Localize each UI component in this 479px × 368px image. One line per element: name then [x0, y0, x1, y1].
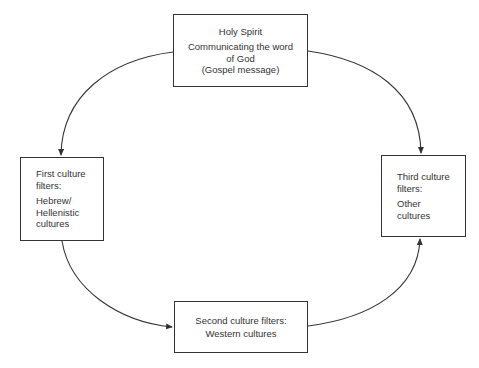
node-third-culture-filters: Third culture filters: Other cultures	[381, 155, 466, 237]
arrow-top-to-left	[61, 52, 173, 155]
node-title: Holy Spirit	[219, 26, 262, 38]
node-text: Hellenistic	[36, 207, 103, 219]
node-heading: First culture	[36, 168, 103, 180]
node-text: cultures	[36, 218, 103, 230]
node-heading: filters:	[397, 183, 465, 195]
node-heading: filters:	[36, 180, 103, 192]
arrow-left-to-bottom	[62, 241, 172, 327]
node-text: Western cultures	[205, 328, 276, 340]
node-text: Hebrew/	[36, 195, 103, 207]
culture-filters-diagram: Holy Spirit Communicating the word of Go…	[0, 0, 479, 368]
node-second-culture-filters: Second culture filters: Western cultures	[174, 301, 308, 353]
node-text: Other	[397, 198, 465, 210]
node-text: Communicating the word	[188, 41, 293, 53]
node-first-culture-filters: First culture filters: Hebrew/ Hellenist…	[20, 157, 104, 241]
node-text: (Gospel message)	[202, 64, 280, 76]
arrow-bottom-to-right	[308, 239, 420, 326]
node-text: of God	[226, 53, 255, 65]
node-heading: Second culture filters:	[195, 315, 286, 327]
node-holy-spirit: Holy Spirit Communicating the word of Go…	[173, 14, 308, 87]
node-text: cultures	[397, 210, 465, 222]
arrow-top-to-right	[308, 51, 421, 153]
node-heading: Third culture	[397, 171, 465, 183]
